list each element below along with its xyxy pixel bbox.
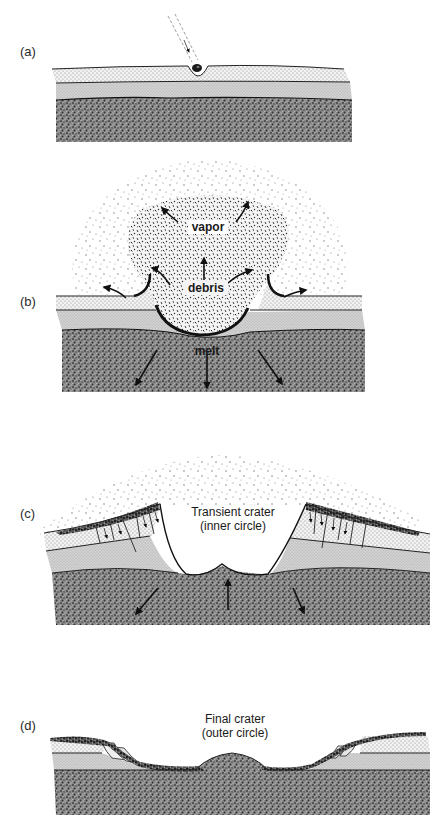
- transient-crater-caption-line2: (inner circle): [168, 519, 298, 533]
- bedrock-layer: [56, 97, 352, 142]
- final-crater-caption-line1: Final crater: [170, 712, 300, 726]
- transient-crater-caption-line1: Transient crater: [168, 505, 298, 519]
- panel-c-diagram: [0, 440, 433, 650]
- debris-label: debris: [184, 281, 228, 295]
- panel-a-diagram: [0, 0, 433, 150]
- melt-label: melt: [190, 344, 224, 358]
- bedrock-layer: [52, 566, 430, 625]
- meteorite-icon: [168, 14, 202, 72]
- bedrock-layer: [62, 329, 365, 392]
- final-crater-caption-line2: (outer circle): [170, 726, 300, 740]
- panel-b-diagram: [0, 140, 433, 460]
- vapor-label: vapor: [188, 220, 228, 234]
